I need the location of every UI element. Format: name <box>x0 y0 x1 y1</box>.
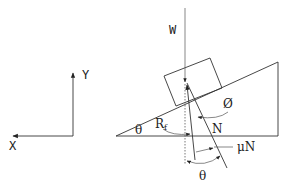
friction-component-arrow <box>196 148 213 152</box>
incline-angle-label: θ <box>135 123 142 137</box>
bottom-angle-label: θ <box>199 169 206 183</box>
resultant-label: Rf <box>155 117 168 132</box>
friction-angle-label: Ø <box>223 97 233 111</box>
resultant-leader-arc <box>163 129 190 134</box>
x-axis-label: X <box>9 139 17 153</box>
coordinate-axes <box>13 73 73 136</box>
friction-label: μN <box>237 140 255 154</box>
y-axis-label: Y <box>82 68 90 82</box>
bottom-angle-arc <box>187 156 220 164</box>
block <box>164 58 222 106</box>
weight-label: W <box>169 23 177 37</box>
normal-force-label: N <box>212 122 223 136</box>
resultant-force-vector <box>187 85 195 160</box>
free-body-diagram: W Y X θ Ø Rf N μN θ <box>0 0 285 194</box>
